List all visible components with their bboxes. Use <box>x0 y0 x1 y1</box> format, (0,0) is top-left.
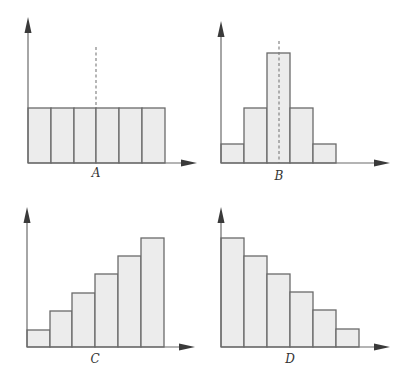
panel-c-bar-4 <box>95 274 118 347</box>
panel-d-label: D <box>284 352 295 366</box>
panel-d-bar-2 <box>244 256 267 347</box>
panel-c-bar-2 <box>50 311 72 347</box>
panel-c-y-arrow-icon <box>24 207 31 223</box>
panel-a-bar-3 <box>74 108 96 163</box>
panel-a-bar-5 <box>119 108 142 163</box>
panel-a-bar-2 <box>51 108 74 163</box>
panel-d-bar-1 <box>221 238 244 347</box>
panel-c-bar-3 <box>72 293 95 347</box>
panel-a-label: A <box>91 166 101 180</box>
panel-b-y-arrow-icon <box>218 21 225 37</box>
panel-b-bar-2 <box>244 108 267 163</box>
histogram-figure: A B C <box>0 0 406 382</box>
panel-c-bar-5 <box>118 256 141 347</box>
panel-b-bar-4 <box>290 108 313 163</box>
panel-b-bar-5 <box>313 144 336 163</box>
panel-c: C <box>24 207 196 366</box>
panel-b: B <box>218 21 391 183</box>
panel-d-x-arrow-icon <box>374 344 390 351</box>
panel-d: D <box>218 207 391 366</box>
panel-d-bar-3 <box>267 274 290 347</box>
panel-c-bar-6 <box>141 238 164 347</box>
panel-d-bar-5 <box>313 310 336 347</box>
panel-d-bars <box>221 238 359 347</box>
panel-b-bar-1 <box>221 144 244 163</box>
panel-b-x-arrow-icon <box>374 160 390 167</box>
panel-a: A <box>25 17 198 180</box>
panel-a-bar-6 <box>142 108 165 163</box>
panel-c-label: C <box>90 352 99 366</box>
panel-a-bar-4 <box>96 108 119 163</box>
panel-a-bars <box>28 108 165 163</box>
panel-d-bar-4 <box>290 292 313 347</box>
panel-d-y-arrow-icon <box>218 207 225 223</box>
panel-c-bars <box>27 238 164 347</box>
panel-a-bar-1 <box>28 108 51 163</box>
panel-d-bar-6 <box>336 329 359 347</box>
panel-a-x-arrow-icon <box>181 160 197 167</box>
panel-b-label: B <box>274 169 284 183</box>
panel-c-bar-1 <box>27 330 50 347</box>
panel-c-x-arrow-icon <box>179 344 195 351</box>
panel-a-y-arrow-icon <box>25 17 32 33</box>
